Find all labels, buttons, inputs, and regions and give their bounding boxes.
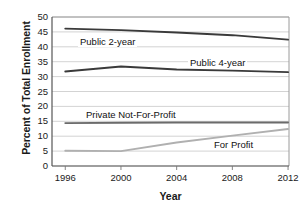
series-label-public-2-year: Public 2-year (78, 36, 137, 47)
x-tick-label: 2004 (157, 172, 197, 183)
series-label-public-4-year: Public 4-year (188, 57, 247, 68)
x-tick-label: 2008 (212, 172, 252, 183)
chart-figure: Percent of Total Enrollment 051015202530… (0, 0, 305, 210)
x-tick-label: 2012 (268, 172, 305, 183)
x-tick-label: 1996 (45, 172, 85, 183)
x-axis-label: Year (52, 190, 289, 202)
series-line-private-not-for-profit (65, 122, 288, 123)
x-tick-label: 2000 (101, 172, 141, 183)
series-label-private-not-for-profit: Private Not-For-Profit (84, 109, 178, 120)
series-label-for-profit: For Profit (212, 139, 255, 150)
